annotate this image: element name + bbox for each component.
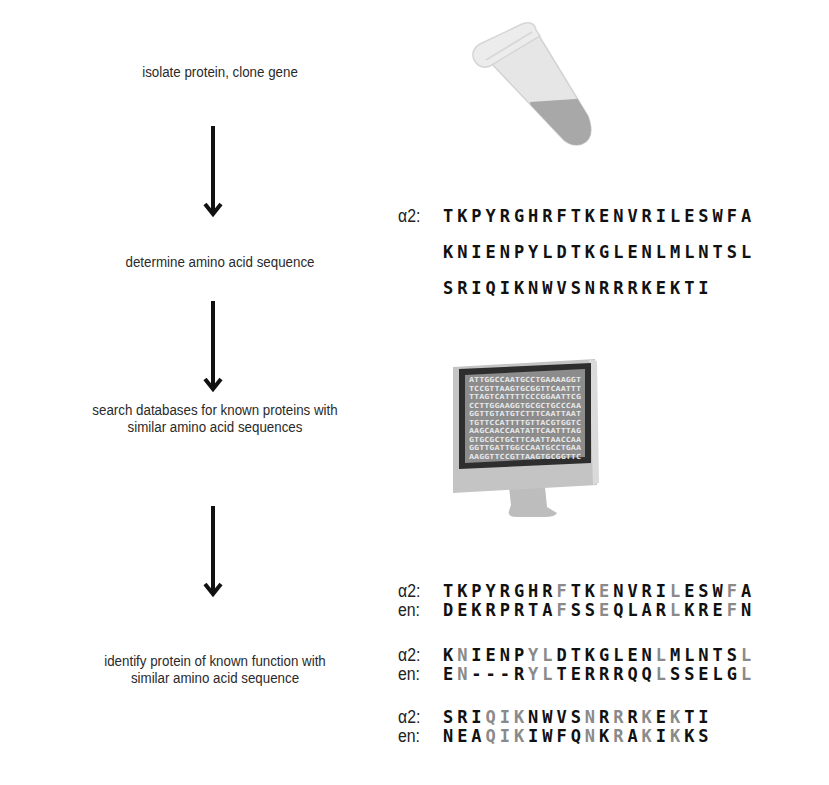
amino-acid: F: [555, 204, 569, 228]
amino-acid: E: [597, 204, 611, 228]
amino-acid: R: [583, 665, 597, 684]
svg-text:AAGCAACCAATATTCAATTTAG: AAGCAACCAATATTCAATTTAG: [469, 427, 581, 435]
amino-acid: L: [625, 601, 639, 620]
amino-acid: N: [498, 240, 512, 264]
amino-acid: K: [640, 276, 654, 300]
amino-acid: H: [526, 582, 540, 601]
amino-acid: I: [696, 276, 710, 300]
amino-acid: K: [668, 276, 682, 300]
amino-acid: K: [441, 646, 455, 665]
amino-acid: E: [711, 601, 725, 620]
amino-acid: K: [682, 727, 696, 746]
amino-acid: L: [739, 646, 753, 665]
down-arrow-1: [203, 126, 223, 218]
amino-acid: S: [569, 276, 583, 300]
amino-acid: K: [583, 582, 597, 601]
amino-acid: L: [540, 646, 554, 665]
amino-acid: I: [654, 727, 668, 746]
amino-acid: T: [569, 582, 583, 601]
alignment-block-2: α2:KNIENPYLDTKGLENLMLNTSL en:EN---RYLTER…: [398, 646, 753, 684]
down-arrow-3: [203, 506, 223, 598]
amino-acid: L: [540, 665, 554, 684]
amino-acid: E: [484, 240, 498, 264]
alignment-row-alpha2: α2:SRIQIKNWVSNRRRKEKTI: [398, 708, 711, 727]
amino-acid: E: [569, 665, 583, 684]
amino-acid: L: [668, 582, 682, 601]
amino-acid: V: [555, 708, 569, 727]
amino-acid: G: [597, 646, 611, 665]
amino-acid: I: [469, 240, 483, 264]
amino-acid: K: [512, 276, 526, 300]
amino-acid: M: [668, 240, 682, 264]
step-4-label: identify protein of known function with …: [47, 652, 382, 686]
amino-acid: I: [469, 276, 483, 300]
alignment-row-engrailed: en:DEKRPRTAFSSEQLARLKREFN: [398, 601, 753, 620]
amino-acid: -: [484, 665, 498, 684]
amino-acid: -: [469, 665, 483, 684]
amino-acid: R: [484, 601, 498, 620]
amino-acid: K: [682, 601, 696, 620]
amino-acid: L: [611, 646, 625, 665]
amino-acid: E: [441, 665, 455, 684]
amino-acid: N: [583, 727, 597, 746]
amino-acid: N: [526, 708, 540, 727]
step-2-label: determine amino acid sequence: [82, 253, 357, 270]
amino-acid: E: [625, 240, 639, 264]
amino-acid: A: [739, 582, 753, 601]
amino-acid: R: [640, 582, 654, 601]
amino-acid: T: [711, 240, 725, 264]
amino-acid: E: [654, 708, 668, 727]
amino-acid: L: [654, 646, 668, 665]
amino-acid: K: [640, 727, 654, 746]
amino-acid: R: [597, 708, 611, 727]
amino-acid: A: [739, 204, 753, 228]
amino-acid: N: [583, 276, 597, 300]
amino-acid: E: [597, 582, 611, 601]
amino-acid: N: [640, 646, 654, 665]
amino-acid: I: [469, 708, 483, 727]
amino-acid: R: [611, 708, 625, 727]
amino-acid: Y: [484, 582, 498, 601]
amino-acid: F: [555, 601, 569, 620]
amino-acid: K: [597, 727, 611, 746]
amino-acid: W: [540, 708, 554, 727]
amino-acid: H: [526, 204, 540, 228]
amino-acid: P: [498, 601, 512, 620]
amino-acid: Y: [526, 665, 540, 684]
amino-acid: S: [569, 708, 583, 727]
amino-acid: L: [611, 240, 625, 264]
amino-acid: R: [597, 665, 611, 684]
amino-acid: R: [455, 708, 469, 727]
amino-acid: T: [569, 240, 583, 264]
amino-acid: R: [540, 582, 554, 601]
amino-acid: Q: [484, 727, 498, 746]
amino-acid: T: [526, 601, 540, 620]
svg-text:AAGGTTCCGTTAAGTGCGGTTC: AAGGTTCCGTTAAGTGCGGTTC: [469, 453, 581, 461]
amino-acid: I: [654, 582, 668, 601]
amino-acid: T: [711, 646, 725, 665]
microcentrifuge-tube-icon: [460, 20, 610, 164]
amino-acid: R: [611, 665, 625, 684]
amino-acid: N: [498, 646, 512, 665]
amino-acid: R: [512, 601, 526, 620]
amino-acid: Q: [625, 665, 639, 684]
alignment-block-3: α2:SRIQIKNWVSNRRRKEKTI en:NEAQIKIWFQNKRA…: [398, 708, 711, 746]
amino-acid: I: [498, 276, 512, 300]
amino-acid: N: [583, 708, 597, 727]
amino-acid: F: [725, 204, 739, 228]
svg-text:TCCGTTAAGTGCGGTTCAATTT: TCCGTTAAGTGCGGTTCAATTT: [469, 385, 581, 393]
amino-acid: Q: [569, 727, 583, 746]
amino-acid: Q: [640, 665, 654, 684]
svg-text:CCTTGGAAGGTGCGCTGCCCAA: CCTTGGAAGGTGCGCTGCCCAA: [469, 402, 582, 410]
amino-acid: W: [540, 276, 554, 300]
amino-acid: E: [682, 204, 696, 228]
amino-acid: P: [512, 240, 526, 264]
amino-acid: K: [668, 708, 682, 727]
amino-acid: N: [455, 646, 469, 665]
amino-acid: T: [569, 646, 583, 665]
amino-acid: S: [569, 601, 583, 620]
amino-acid: T: [682, 708, 696, 727]
amino-acid: Q: [484, 276, 498, 300]
amino-acid: Y: [526, 646, 540, 665]
step-1-label: isolate protein, clone gene: [82, 63, 357, 80]
